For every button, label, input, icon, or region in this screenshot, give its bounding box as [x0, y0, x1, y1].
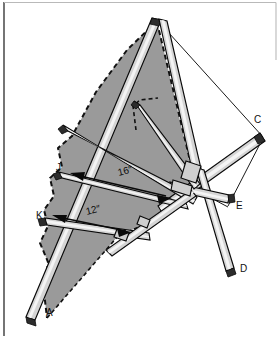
kite-frame-diagram [0, 0, 277, 337]
vertex-label-J: J [56, 163, 61, 173]
vertex-label-C: C [254, 115, 261, 125]
vertex-label-E: E [236, 201, 243, 211]
vertex-label-A: A [46, 308, 53, 318]
figure-root: C E D J K A 16″ 12″ [0, 0, 277, 337]
rod-leg-D [196, 168, 236, 277]
vertex-label-D: D [240, 264, 247, 274]
vertex-label-K: K [36, 211, 43, 221]
